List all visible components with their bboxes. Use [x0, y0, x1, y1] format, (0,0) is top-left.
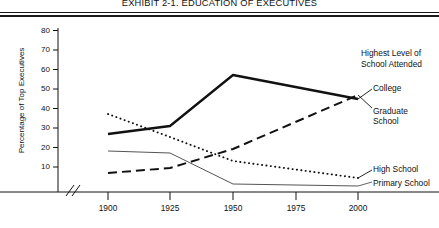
plot-area: Percentage of Top Executives 80 70 60 50…	[0, 0, 439, 228]
x-tick-label-1925: 1925	[150, 203, 190, 213]
series-line-college	[108, 75, 358, 134]
series-label-graduate-school: Graduate School	[373, 106, 408, 127]
legend-header: Highest Level of School Attended	[361, 48, 422, 69]
leader-college	[358, 89, 372, 99]
x-tick-marks	[108, 192, 358, 200]
series-label-graduate-school-line-2: School	[373, 116, 408, 126]
y-tick-label-50: 50	[28, 84, 50, 93]
y-tick-label-10: 10	[28, 162, 50, 171]
y-axis-label: Percentage of Top Executives	[17, 31, 26, 171]
x-tick-label-2000: 2000	[338, 203, 378, 213]
series-label-graduate-school-line-1: Graduate	[373, 106, 408, 116]
series-label-primary-school: Primary School	[373, 178, 430, 188]
series-label-high-school: High School	[373, 164, 418, 174]
y-tick-label-40: 40	[28, 104, 50, 113]
legend-header-line-2: School Attended	[361, 59, 422, 70]
series-line-graduate-school	[108, 95, 358, 173]
x-tick-label-1975: 1975	[276, 203, 316, 213]
y-tick-label-60: 60	[28, 65, 50, 74]
y-tick-label-20: 20	[28, 143, 50, 152]
leader-high-school	[358, 170, 372, 178]
series-line-high-school	[108, 114, 358, 178]
x-tick-label-1950: 1950	[213, 203, 253, 213]
x-tick-label-1900: 1900	[88, 203, 128, 213]
x-axis-break-icon	[66, 185, 80, 196]
chart-figure: EXHIBIT 2-1. EDUCATION OF EXECUTIVES	[0, 0, 439, 228]
series-label-college: College	[373, 83, 401, 93]
legend-header-line-1: Highest Level of	[361, 48, 422, 59]
y-tick-label-30: 30	[28, 123, 50, 132]
leader-primary-school	[358, 182, 372, 186]
y-tick-label-70: 70	[28, 45, 50, 54]
y-tick-marks	[53, 31, 58, 168]
series-line-primary-school	[108, 151, 358, 186]
y-tick-label-80: 80	[28, 26, 50, 35]
